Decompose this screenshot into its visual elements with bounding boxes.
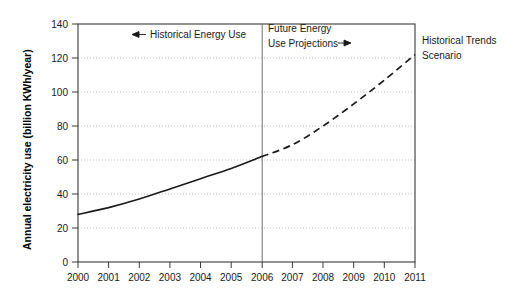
annotation-scenario-line2: Scenario: [422, 50, 462, 61]
x-tick-label-2007: 2007: [281, 272, 304, 283]
chart-canvas: Annual electricity use (billion KWh/year…: [0, 0, 528, 300]
x-tick-label-2010: 2010: [373, 272, 396, 283]
x-tick-label-2001: 2001: [97, 272, 120, 283]
x-tick-label-2006: 2006: [251, 272, 274, 283]
x-tick-label-2003: 2003: [159, 272, 182, 283]
annotation-future-line2: Use Projections: [268, 38, 338, 49]
annotation-historical-label: Historical Energy Use: [150, 29, 247, 40]
y-tick-label-60: 60: [57, 155, 69, 166]
y-tick-label-80: 80: [57, 121, 69, 132]
y-tick-label-0: 0: [62, 257, 68, 268]
x-tick-label-2009: 2009: [343, 272, 366, 283]
annotation-scenario-line1: Historical Trends: [422, 35, 496, 46]
x-tick-label-2008: 2008: [312, 272, 335, 283]
annotation-historical-energy-use: Historical Energy Use: [132, 29, 247, 40]
x-tick-label-2002: 2002: [128, 272, 151, 283]
y-tick-label-140: 140: [51, 19, 68, 30]
x-tick-label-2000: 2000: [67, 272, 90, 283]
annotation-future-line1: Future Energy: [268, 23, 331, 34]
y-tick-label-20: 20: [57, 223, 69, 234]
y-tick-label-120: 120: [51, 53, 68, 64]
energy-use-line-chart: Annual electricity use (billion KWh/year…: [0, 0, 528, 300]
x-tick-label-2005: 2005: [220, 272, 243, 283]
x-tick-label-2004: 2004: [189, 272, 212, 283]
y-tick-label-100: 100: [51, 87, 68, 98]
x-tick-label-2011: 2011: [404, 272, 426, 283]
y-axis-title: Annual electricity use (billion KWh/year…: [21, 49, 33, 250]
y-tick-label-40: 40: [57, 189, 69, 200]
